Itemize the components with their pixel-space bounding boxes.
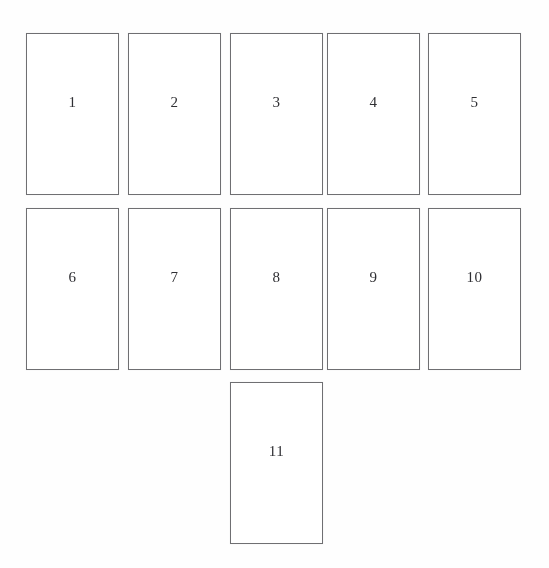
panel-9[interactable]: 9 (327, 208, 420, 370)
panel-1[interactable]: 1 (26, 33, 119, 195)
panel-label: 9 (328, 270, 419, 285)
panel-label: 6 (27, 270, 118, 285)
panel-10[interactable]: 10 (428, 208, 521, 370)
panel-label: 1 (27, 95, 118, 110)
panel-6[interactable]: 6 (26, 208, 119, 370)
panel-5[interactable]: 5 (428, 33, 521, 195)
panel-label: 7 (129, 270, 220, 285)
panel-4[interactable]: 4 (327, 33, 420, 195)
panel-7[interactable]: 7 (128, 208, 221, 370)
panel-label: 4 (328, 95, 419, 110)
panel-label: 8 (231, 270, 322, 285)
panel-8[interactable]: 8 (230, 208, 323, 370)
panel-2[interactable]: 2 (128, 33, 221, 195)
diagram-canvas: 1234567891011 (0, 0, 549, 568)
panel-3[interactable]: 3 (230, 33, 323, 195)
panel-11[interactable]: 11 (230, 382, 323, 544)
panel-label: 2 (129, 95, 220, 110)
panel-label: 10 (429, 270, 520, 285)
panel-label: 5 (429, 95, 520, 110)
panel-label: 3 (231, 95, 322, 110)
panel-label: 11 (231, 444, 322, 459)
